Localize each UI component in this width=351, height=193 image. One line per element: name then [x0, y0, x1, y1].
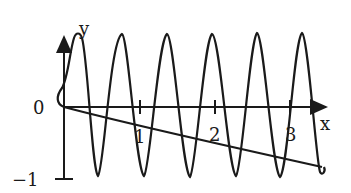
x-tick-label-2: 2 — [209, 124, 220, 145]
y-axis-label: y — [78, 18, 90, 39]
origin-label: 0 — [33, 97, 44, 118]
oscillating-curve — [58, 33, 325, 177]
x-tick-label-1: 1 — [134, 126, 145, 147]
y-tick-label-minus-one: −1 — [12, 169, 39, 190]
x-axis-label: x — [320, 113, 330, 134]
function-graph: 0 y x 1 2 3 −1 — [0, 0, 351, 193]
x-tick-label-3: 3 — [285, 124, 296, 145]
